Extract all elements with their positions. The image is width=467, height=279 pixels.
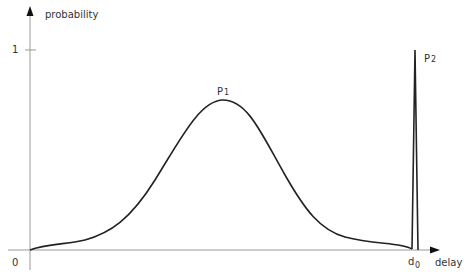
p2-spike: [412, 50, 418, 250]
p1-annotation: P 1: [217, 86, 229, 97]
d0-base: d: [408, 256, 414, 267]
p1-curve: [30, 100, 412, 250]
origin-label: 0: [12, 257, 18, 268]
p2-base: P: [424, 53, 430, 64]
p2-subscript: 2: [431, 55, 436, 64]
p1-subscript: 1: [224, 88, 229, 97]
y-axis-arrow-icon: [27, 6, 34, 16]
x-axis-label: delay: [435, 257, 462, 268]
y-axis-label: probability: [45, 9, 98, 20]
y-tick-label-1: 1: [12, 44, 18, 55]
x-axis-arrow-icon: [430, 247, 440, 254]
d0-tick-label: d 0: [408, 256, 420, 270]
p2-annotation: P 2: [424, 53, 436, 64]
d0-subscript: 0: [415, 261, 420, 270]
delay-probability-chart: probability 1 0 delay d 0 P 1 P 2: [0, 0, 467, 279]
p1-base: P: [217, 86, 223, 97]
